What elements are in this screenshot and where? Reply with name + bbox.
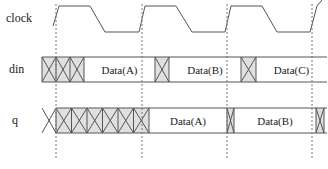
data-label: Data(C): [274, 64, 310, 77]
timing-diagram: clock din q Data(A)Data(B)Data(C) Data(A…: [0, 0, 328, 169]
data-label: Data(B): [187, 64, 223, 77]
data-label: Data(A): [170, 115, 206, 128]
din-waveform: Data(A)Data(B)Data(C): [42, 57, 327, 82]
clock-waveform: [53, 0, 322, 32]
q-waveform: Data(A)Data(B): [42, 108, 327, 133]
data-label: Data(B): [257, 115, 293, 128]
data-label: Data(A): [101, 64, 137, 77]
waveforms: Data(A)Data(B)Data(C) Data(A)Data(B): [0, 0, 328, 169]
